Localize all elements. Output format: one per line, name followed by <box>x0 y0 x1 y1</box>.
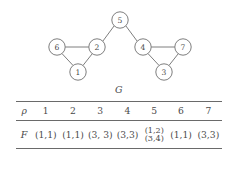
header-rho: ρ <box>16 102 32 120</box>
graph-svg: 5 6 2 4 7 <box>0 0 238 96</box>
header-col-3: 3 <box>87 102 114 120</box>
table-rule-bottom <box>16 147 222 149</box>
cell-F-5-line2: (3,4) <box>141 134 167 142</box>
node-6-label: 6 <box>55 43 60 52</box>
graph-nodes: 5 6 2 4 7 <box>49 12 191 80</box>
rho-table: ρ 1 2 3 4 5 6 7 F (1,1) (1,1) (3, 3) <box>16 100 222 149</box>
edge-6-1 <box>62 54 73 65</box>
cell-F-1: (1,1) <box>32 121 59 148</box>
header-col-6: 6 <box>167 102 194 120</box>
node-7-label: 7 <box>181 43 186 52</box>
figure-caption: G <box>0 84 238 95</box>
edge-5-4 <box>126 26 137 41</box>
node-7: 7 <box>175 39 191 55</box>
cell-F-5: (1,2) (3,4) <box>141 121 167 148</box>
node-1-label: 1 <box>76 68 81 77</box>
node-1: 1 <box>70 64 86 80</box>
node-2-label: 2 <box>95 43 100 52</box>
table-row: F (1,1) (1,1) (3, 3) (3,3) (1,2) (3,4) (… <box>16 121 222 148</box>
row-label-F: F <box>16 121 32 148</box>
header-col-4: 4 <box>114 102 141 120</box>
cell-F-6: (1,1) <box>167 121 194 148</box>
edge-4-3 <box>148 54 159 65</box>
header-col-7: 7 <box>195 102 222 120</box>
node-3-label: 3 <box>162 68 167 77</box>
node-6: 6 <box>49 39 65 55</box>
edge-5-2 <box>103 26 114 41</box>
cell-F-4: (3,3) <box>114 121 141 148</box>
cell-F-7: (3,3) <box>195 121 222 148</box>
figure-page: 5 6 2 4 7 <box>0 0 238 173</box>
cell-F-3: (3, 3) <box>87 121 114 148</box>
node-5: 5 <box>112 12 128 28</box>
edge-2-1 <box>83 54 92 65</box>
graph-edges <box>62 26 178 65</box>
node-3: 3 <box>156 64 172 80</box>
node-2: 2 <box>89 39 105 55</box>
header-col-2: 2 <box>59 102 86 120</box>
edge-7-3 <box>169 54 178 65</box>
node-5-label: 5 <box>118 16 123 25</box>
node-4: 4 <box>135 39 151 55</box>
header-col-1: 1 <box>32 102 59 120</box>
graph-figure: 5 6 2 4 7 <box>0 0 238 96</box>
table-header-row: ρ 1 2 3 4 5 6 7 <box>16 102 222 120</box>
node-4-label: 4 <box>141 43 146 52</box>
header-col-5: 5 <box>141 102 167 120</box>
cell-F-2: (1,1) <box>59 121 86 148</box>
rho-table-container: ρ 1 2 3 4 5 6 7 F (1,1) (1,1) (3, 3) <box>16 100 222 149</box>
